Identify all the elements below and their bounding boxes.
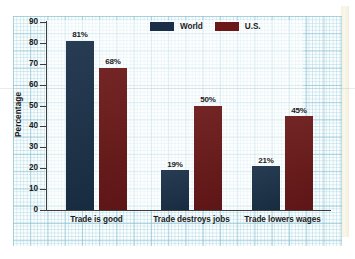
y-axis-line xyxy=(46,21,47,211)
legend-swatch-icon xyxy=(215,22,239,31)
y-axis-tick-label: 0 xyxy=(14,205,38,215)
category-label-0: Trade is good xyxy=(42,215,152,224)
chart-legend: WorldU.S. xyxy=(150,22,261,31)
y-axis-tick-label-text: 10 xyxy=(14,184,38,193)
y-axis-tick-label-text: 0 xyxy=(14,205,38,214)
bar-value-label: 68% xyxy=(105,57,121,66)
y-axis-title: Percentage xyxy=(14,85,23,145)
chart-scan-container: Percentage 9080706050403020100 81%68%19%… xyxy=(0,0,355,259)
y-axis-tick-label-text: 60 xyxy=(14,80,38,89)
bar-us-2: 45% xyxy=(285,116,313,210)
bar-world-2: 21% xyxy=(252,166,280,210)
y-axis-tick-label: 70 xyxy=(14,59,38,69)
y-axis-tick xyxy=(40,126,46,127)
y-axis-tick-label-text: 20 xyxy=(14,163,38,172)
y-axis-tick-label: 20 xyxy=(14,163,38,173)
y-axis-tick-label-text: 90 xyxy=(14,17,38,26)
y-axis-tick xyxy=(40,43,46,44)
bar-world-0: 81% xyxy=(66,41,94,210)
y-axis-tick-label: 10 xyxy=(14,184,38,194)
y-axis-tick-label-text: 70 xyxy=(14,59,38,68)
legend-swatch-icon xyxy=(150,22,174,31)
bar-us-0: 68% xyxy=(99,68,127,210)
legend-item-us: U.S. xyxy=(215,22,261,31)
y-axis-tick-label: 40 xyxy=(14,121,38,131)
y-axis-tick xyxy=(40,147,46,148)
y-axis-tick xyxy=(40,64,46,65)
legend-label: U.S. xyxy=(245,22,261,31)
y-axis-tick-label: 60 xyxy=(14,80,38,90)
y-axis-tick xyxy=(40,189,46,190)
y-axis-tick-label: 30 xyxy=(14,142,38,152)
y-axis-tick-label: 80 xyxy=(14,38,38,48)
legend-item-world: World xyxy=(150,22,203,31)
category-label-2: Trade lowers wages xyxy=(228,215,338,224)
bar-world-1: 19% xyxy=(161,170,189,210)
y-axis-tick-label-text: 30 xyxy=(14,142,38,151)
y-axis-tick-label-text: 40 xyxy=(14,121,38,130)
y-axis-tick xyxy=(40,22,46,23)
y-axis-tick-label-text: 50 xyxy=(14,101,38,110)
bar-chart-plot: Percentage 9080706050403020100 81%68%19%… xyxy=(0,0,355,259)
y-axis-tick xyxy=(40,168,46,169)
legend-label: World xyxy=(180,22,203,31)
y-axis-tick xyxy=(40,106,46,107)
bar-value-label: 19% xyxy=(167,160,183,169)
y-axis-tick-label-text: 80 xyxy=(14,38,38,47)
bar-value-label: 81% xyxy=(72,30,88,39)
bar-value-label: 45% xyxy=(291,106,307,115)
y-axis-tick-label: 50 xyxy=(14,101,38,111)
bar-value-label: 50% xyxy=(200,95,216,104)
y-axis-tick-label: 90 xyxy=(14,17,38,27)
y-axis-tick xyxy=(40,85,46,86)
y-axis-tick xyxy=(40,210,46,211)
x-axis-baseline xyxy=(46,210,331,211)
bar-us-1: 50% xyxy=(194,106,222,210)
bar-value-label: 21% xyxy=(258,156,274,165)
